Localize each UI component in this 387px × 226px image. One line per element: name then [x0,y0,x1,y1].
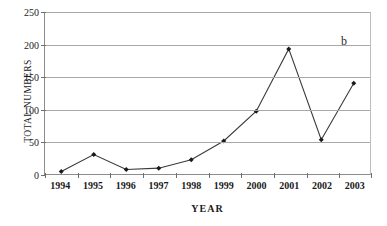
y-tick-label: 250 [5,7,39,18]
gridline [45,142,370,143]
y-tick-label: 200 [5,39,39,50]
x-tick-mark [78,173,79,178]
plot-area [44,12,371,175]
x-tick-mark [110,173,111,178]
x-axis-title: YEAR [44,203,371,214]
x-tick-label: 1994 [44,180,77,196]
x-tick-mark [371,173,372,178]
x-tick-label: 1997 [142,180,175,196]
y-tick-mark [41,142,46,143]
gridline [45,77,370,78]
data-point-marker [351,81,356,86]
data-point-marker [124,167,129,172]
x-tick-label: 1995 [77,180,110,196]
x-tick-label: 2000 [240,180,273,196]
gridline [45,45,370,46]
y-tick-mark [41,12,46,13]
data-point-marker [59,169,64,174]
x-tick-mark [241,173,242,178]
x-tick-mark [176,173,177,178]
x-tick-label: 1999 [208,180,241,196]
y-tick-mark [41,45,46,46]
data-line-series [45,12,370,174]
y-tick-mark [41,110,46,111]
x-tick-label: 2001 [273,180,306,196]
y-tick-label: 150 [5,72,39,83]
x-tick-mark [339,173,340,178]
x-tick-mark [307,173,308,178]
data-point-marker [156,166,161,171]
x-tick-mark [143,173,144,178]
y-tick-label: 100 [5,104,39,115]
x-tick-mark [274,173,275,178]
data-point-marker [319,137,324,142]
x-tick-label: 2003 [338,180,371,196]
x-tick-label: 1998 [175,180,208,196]
data-point-marker [189,157,194,162]
gridline [45,110,370,111]
x-tick-mark [45,173,46,178]
y-tick-label: 0 [5,170,39,181]
x-axis-tick-labels: 1994199519961997199819992000200120022003 [44,180,371,196]
x-tick-label: 1996 [109,180,142,196]
chart-figure: TOTAL NUMBERS 050100150200250 1994199519… [0,0,387,226]
x-tick-mark [209,173,210,178]
data-point-marker [91,152,96,157]
gridline [45,12,370,13]
data-point-marker [286,46,291,51]
panel-label: b [341,34,347,49]
y-axis-tick-labels: 050100150200250 [5,0,39,226]
y-tick-mark [41,77,46,78]
x-tick-label: 2002 [306,180,339,196]
y-tick-label: 50 [5,137,39,148]
